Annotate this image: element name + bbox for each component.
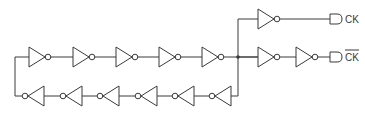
ckbar-terminal-icon (330, 52, 342, 62)
junction-dot (236, 55, 240, 59)
inverter-bottom-2 (60, 86, 82, 106)
inverter-bottom-6 (209, 86, 231, 106)
inverter-top-2 (73, 47, 95, 67)
inverter-top-4 (159, 47, 181, 67)
inverter-top-1 (29, 47, 51, 67)
inverter-ckbar-1 (258, 47, 280, 67)
inverter-top-5 (202, 47, 224, 67)
inverter-bottom-3 (97, 86, 119, 106)
ckbar-label: CK (345, 52, 359, 63)
inverter-bottom-1 (22, 86, 44, 106)
ck-terminal-icon (330, 14, 342, 24)
inverter-bottom-4 (135, 86, 157, 106)
ring-oscillator-diagram: CK CK (0, 0, 365, 115)
inverter-ckbar-2 (296, 47, 318, 67)
inverter-top-3 (116, 47, 138, 67)
ck-label: CK (345, 14, 359, 25)
inverter-ck (258, 9, 280, 29)
inverter-bottom-5 (172, 86, 194, 106)
